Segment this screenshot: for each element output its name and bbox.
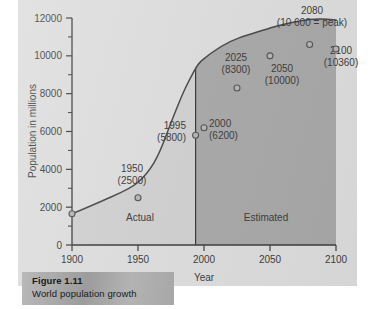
y-tick-label-2000: 2000 [40, 202, 63, 213]
x-axis-major-ticks [72, 245, 336, 251]
annotation-2025: 2025 (8300) [222, 52, 251, 75]
annotation-2080-year: 2080 [301, 5, 324, 16]
population-growth-chart: 0 2000 4000 6000 8000 10000 12000 1900 1… [0, 0, 375, 309]
data-point-2025 [234, 85, 240, 91]
annotation-2100: 2100 (10360) [324, 45, 358, 68]
data-point-2000 [201, 125, 207, 131]
figure-caption-number: Figure 1.11 [32, 275, 174, 287]
annotation-1995: 1995 (5800) [157, 120, 186, 143]
annotation-2080-value: (10 600 = peak) [277, 17, 347, 28]
data-point-1995 [193, 132, 199, 138]
data-point-2100 [333, 46, 339, 52]
x-axis-title: Year [194, 272, 215, 283]
annotation-2000-value: (6200) [209, 130, 238, 141]
annotation-1995-year: 1995 [164, 120, 187, 131]
annotation-1950-value: (2500) [118, 175, 147, 186]
x-tick-label-2100: 2100 [325, 254, 348, 265]
annotation-2080: 2080 (10 600 = peak) [277, 5, 347, 28]
annotation-1950-year: 1950 [121, 163, 144, 174]
y-tick-label-8000: 8000 [40, 88, 63, 99]
annotation-2025-year: 2025 [225, 52, 248, 63]
x-tick-label-2000: 2000 [193, 254, 216, 265]
x-tick-label-1950: 1950 [127, 254, 150, 265]
figure-caption-text: World population growth [32, 287, 174, 300]
region-label-estimated: Estimated [244, 212, 288, 223]
y-tick-label-4000: 4000 [40, 164, 63, 175]
y-tick-label-10000: 10000 [34, 50, 62, 61]
annotation-2100-value: (10360) [324, 57, 358, 68]
data-point-2050 [267, 53, 273, 59]
data-point-2080 [307, 41, 313, 47]
annotation-1995-value: (5800) [157, 132, 186, 143]
y-axis-title: Population in millions [27, 84, 38, 178]
annotation-1950: 1950 (2500) [118, 163, 147, 186]
figure-caption: Figure 1.11 World population growth [22, 272, 174, 305]
data-point-1900 [69, 211, 75, 217]
figure-world-population-growth: 0 2000 4000 6000 8000 10000 12000 1900 1… [0, 0, 375, 309]
y-tick-label-0: 0 [56, 240, 62, 251]
y-tick-label-12000: 12000 [34, 13, 62, 24]
annotation-2050-value: (10000) [265, 75, 299, 86]
y-tick-label-6000: 6000 [40, 126, 63, 137]
x-tick-label-1900: 1900 [61, 254, 84, 265]
annotation-2000-year: 2000 [209, 118, 232, 129]
region-label-actual: Actual [126, 212, 154, 223]
annotation-2050-year: 2050 [271, 63, 294, 74]
annotation-2025-value: (8300) [222, 64, 251, 75]
x-tick-label-2050: 2050 [259, 254, 282, 265]
data-point-1950 [135, 195, 141, 201]
